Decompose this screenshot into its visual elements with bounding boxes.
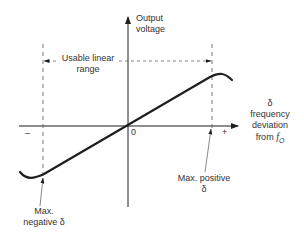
y-axis-label: Output voltage (136, 13, 165, 35)
x-axis-label-line3: deviation (242, 120, 298, 131)
usable-range-label-line2: range (57, 64, 119, 75)
y-axis-label-line1: Output (136, 13, 165, 24)
max-negative-leader (40, 178, 43, 206)
max-negative-label: Max. negative δ (16, 206, 72, 228)
delta-symbol: δ (242, 98, 298, 109)
minus-label: – (25, 128, 30, 139)
usable-range-label: Usable linear range (57, 53, 119, 75)
max-negative-label-line1: Max. (16, 206, 72, 217)
max-positive-label-line2: δ (172, 184, 236, 195)
x-axis-label-line4: from fO (242, 131, 298, 146)
usable-range-label-line1: Usable linear (57, 53, 119, 64)
x-axis-label: δ frequency deviation from fO (242, 98, 298, 146)
max-positive-label-line1: Max. positive (172, 173, 236, 184)
x-axis-label-line2: frequency (242, 109, 298, 120)
max-negative-label-line2: negative δ (16, 217, 72, 228)
f-subscript: O (279, 137, 284, 144)
from-text: from (256, 132, 277, 142)
plus-label: + (222, 127, 227, 138)
origin-label: 0 (131, 127, 136, 138)
y-axis-label-line2: voltage (136, 24, 165, 35)
max-positive-label: Max. positive δ (172, 173, 236, 195)
max-positive-leader (205, 129, 211, 172)
